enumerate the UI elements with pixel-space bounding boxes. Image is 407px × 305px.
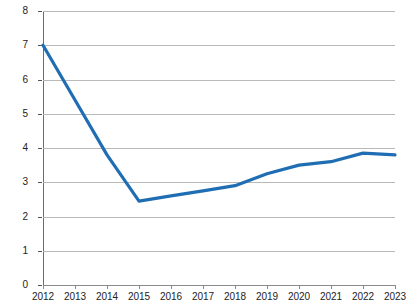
deficit-line — [43, 45, 395, 201]
data-series-layer — [0, 0, 407, 305]
line-chart: Annual Deficit as a Percent of GDP 01234… — [0, 0, 407, 305]
